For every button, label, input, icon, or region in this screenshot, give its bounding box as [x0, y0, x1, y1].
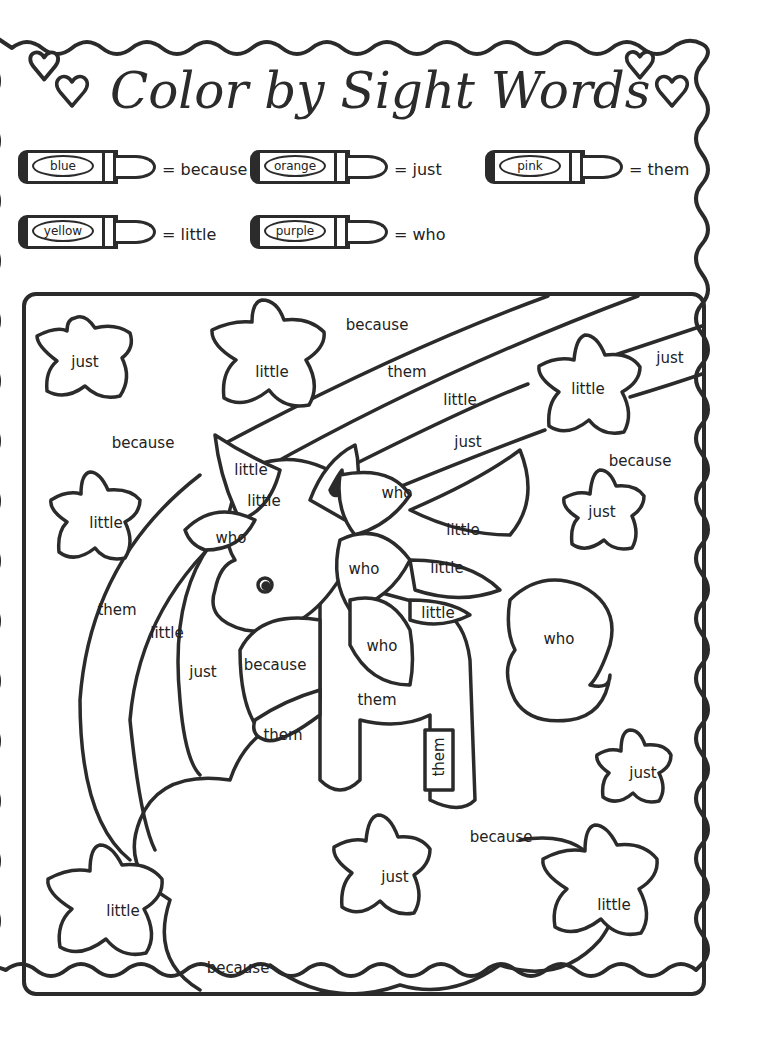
- region-word-wing[interactable]: because: [244, 656, 307, 674]
- region-word-rainbow[interactable]: little: [150, 624, 184, 642]
- region-word-sky[interactable]: because: [112, 434, 175, 452]
- region-word-mane[interactable]: who: [216, 529, 247, 547]
- page-title: Color by Sight Words: [110, 62, 651, 120]
- region-word-star[interactable]: just: [629, 764, 656, 782]
- crayon-icon: orange: [250, 150, 390, 188]
- region-word-star[interactable]: just: [71, 353, 98, 371]
- region-word-star[interactable]: little: [89, 514, 123, 532]
- region-word-mane[interactable]: little: [430, 559, 464, 577]
- region-word-star[interactable]: little: [106, 902, 140, 920]
- region-word-mane[interactable]: who: [382, 484, 413, 502]
- key-word: = them: [629, 160, 689, 179]
- region-word-rainbow[interactable]: just: [454, 433, 481, 451]
- crayon-icon: purple: [250, 215, 390, 253]
- region-word-body[interactable]: them: [357, 691, 396, 709]
- key-item-yellow: yellow = little: [18, 215, 216, 253]
- crayon-color-label: yellow: [32, 220, 94, 242]
- key-item-purple: purple = who: [250, 215, 446, 253]
- region-word-leg[interactable]: them: [430, 737, 448, 776]
- region-word-rainbow[interactable]: them: [387, 363, 426, 381]
- region-word-mane[interactable]: who: [349, 560, 380, 578]
- region-word-wing[interactable]: them: [263, 726, 302, 744]
- crayon-color-label: blue: [32, 155, 94, 177]
- region-word-horn[interactable]: little: [247, 492, 281, 510]
- key-item-pink: pink = them: [485, 150, 689, 188]
- crayon-color-label: pink: [499, 155, 561, 177]
- key-item-orange: orange = just: [250, 150, 442, 188]
- region-word-rainbow[interactable]: little: [443, 391, 477, 409]
- key-word: = who: [394, 225, 446, 244]
- region-word-horn[interactable]: little: [234, 461, 268, 479]
- region-word-tail[interactable]: who: [544, 630, 575, 648]
- crayon-icon: yellow: [18, 215, 158, 253]
- key-word: = little: [162, 225, 216, 244]
- crayon-color-label: orange: [264, 155, 326, 177]
- region-word-mane[interactable]: little: [421, 604, 455, 622]
- crayon-icon: blue: [18, 150, 158, 188]
- region-word-star[interactable]: little: [597, 896, 631, 914]
- region-word-star[interactable]: just: [381, 868, 408, 886]
- region-word-star[interactable]: just: [588, 503, 615, 521]
- key-word: = just: [394, 160, 442, 179]
- key-word: = because: [162, 160, 247, 179]
- crayon-icon: pink: [485, 150, 625, 188]
- region-word-star[interactable]: little: [255, 363, 289, 381]
- crayon-color-label: purple: [264, 220, 326, 242]
- region-word-mane[interactable]: little: [446, 521, 480, 539]
- region-word-sky[interactable]: because: [207, 959, 270, 977]
- region-word-star[interactable]: little: [571, 380, 605, 398]
- region-word-sky[interactable]: because: [609, 452, 672, 470]
- region-word-rainbow[interactable]: just: [189, 663, 216, 681]
- region-word-sky[interactable]: because: [346, 316, 409, 334]
- region-word-mane[interactable]: who: [367, 637, 398, 655]
- region-word-sky[interactable]: because: [470, 828, 533, 846]
- region-word-rainbow[interactable]: them: [97, 601, 136, 619]
- region-word-rainbow[interactable]: just: [656, 349, 683, 367]
- key-item-blue: blue = because: [18, 150, 247, 188]
